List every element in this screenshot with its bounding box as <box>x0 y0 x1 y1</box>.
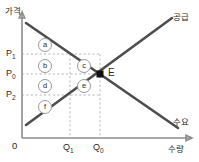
y-tick-p1-sub: 1 <box>12 53 16 60</box>
chart-plot-area <box>0 0 199 162</box>
y-tick-p0-sub: 0 <box>12 73 16 80</box>
axes-group <box>19 12 192 141</box>
origin-label: 0 <box>12 141 17 151</box>
x-tick-q0: Q0 <box>93 143 104 154</box>
region-marker-b: b <box>38 59 52 73</box>
y-tick-p2-sub: 2 <box>12 94 16 101</box>
y-tick-p2: P2 <box>6 90 16 101</box>
x-tick-q1-base: Q <box>63 142 70 152</box>
equilibrium-label: E <box>108 68 115 78</box>
equilibrium-point-marker <box>97 71 104 78</box>
region-marker-c: c <box>77 59 91 73</box>
x-tick-q0-base: Q <box>93 142 100 152</box>
supply-demand-chart: 가격 수량 0 P1 P0 P2 Q1 Q0 공급 수요 E a b c d e… <box>0 0 199 162</box>
supply-curve-label: 공급 <box>173 13 189 22</box>
x-axis-label: 수량 <box>168 145 184 154</box>
region-marker-d: d <box>38 79 52 93</box>
x-tick-q1-sub: 1 <box>70 147 74 154</box>
y-tick-p1: P1 <box>6 49 16 60</box>
region-marker-e: e <box>77 79 91 93</box>
demand-curve-label: 수요 <box>173 118 189 127</box>
y-tick-p0: P0 <box>6 69 16 80</box>
region-marker-f: f <box>38 100 52 114</box>
y-axis-label: 가격 <box>5 7 21 16</box>
x-tick-q0-sub: 0 <box>100 147 104 154</box>
x-tick-q1: Q1 <box>63 143 74 154</box>
region-marker-a: a <box>38 38 52 52</box>
